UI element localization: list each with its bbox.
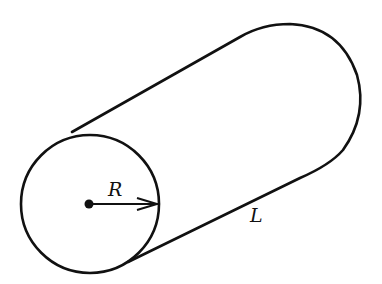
cylinder-outline (72, 24, 360, 262)
cylinder-diagram: R L (0, 0, 382, 284)
length-label: L (249, 204, 263, 226)
radius-label: R (107, 178, 122, 200)
